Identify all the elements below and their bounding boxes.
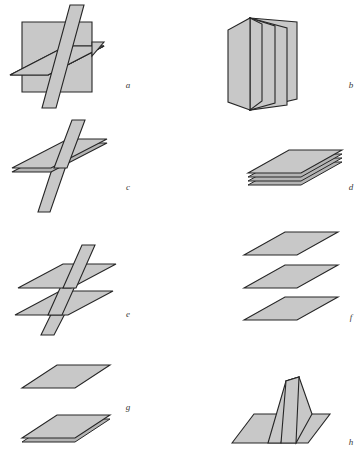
plane-configurations-figure: a b c d e f	[0, 0, 362, 454]
panel-label-g: g	[126, 402, 131, 412]
panel-label-b: b	[349, 80, 354, 90]
panel-label-c: c	[126, 182, 130, 192]
panel-b-fold-front	[228, 18, 250, 110]
panel-label-d: d	[349, 182, 354, 192]
figure-container: a b c d e f	[0, 0, 362, 454]
panel-label-e: e	[126, 309, 130, 319]
panel-label-a: a	[126, 80, 131, 90]
panel-b-fold-1	[250, 18, 262, 110]
panel-label-h: h	[349, 437, 354, 447]
